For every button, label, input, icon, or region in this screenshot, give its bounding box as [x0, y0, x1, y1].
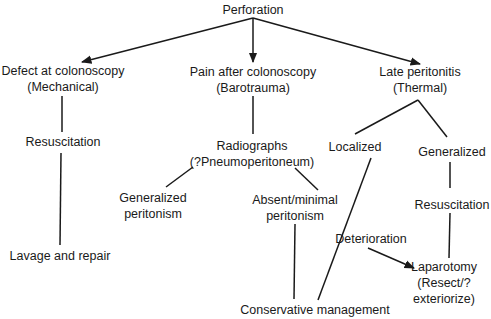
edge-thermal-to-localized [355, 100, 418, 134]
edge-deterioration-to-laparotomy [368, 248, 414, 268]
node-deterioration: Deterioration [335, 231, 407, 247]
node-label: Late peritonitis [379, 64, 460, 80]
node-label: Generalized [418, 144, 485, 160]
node-sublabel: (Thermal) [379, 80, 460, 96]
node-label: Resuscitation [25, 134, 100, 150]
node-label: Radiographs [190, 138, 314, 154]
node-conservative-management: Conservative management [240, 302, 389, 318]
node-label: Laparotomy [411, 259, 477, 275]
node-laparotomy: Laparotomy (Resect/? exteriorize) [411, 259, 477, 307]
node-localized: Localized [329, 139, 382, 155]
node-barotrauma: Pain after colonoscopy (Barotrauma) [190, 64, 316, 96]
edge-root-to-mechanical [82, 18, 253, 62]
node-label: Perforation [222, 2, 283, 18]
edge-absent-peritonism-to-conservative [294, 224, 295, 299]
node-absent-minimal-peritonism: Absent/minimal peritonism [252, 192, 337, 224]
node-mechanical: Defect at colonoscopy (Mechanical) [2, 63, 125, 95]
node-perforation: Perforation [222, 2, 283, 18]
node-radiographs: Radiographs (?Pneumoperitoneum) [190, 138, 314, 170]
edge-resuscitation-to-laparotomy [449, 213, 450, 258]
node-sublabel: (?Pneumoperitoneum) [190, 154, 314, 170]
edge-thermal-to-generalized [418, 100, 447, 137]
node-generalized-peritonism: Generalized peritonism [119, 190, 186, 222]
node-label: Absent/minimal [252, 192, 337, 208]
node-label: Resuscitation [414, 197, 489, 213]
node-label: Pain after colonoscopy [190, 64, 316, 80]
edge-localized-to-conservative [318, 158, 371, 300]
node-label: Deterioration [335, 231, 407, 247]
node-sublabel: peritonism [252, 208, 337, 224]
node-sublabel: peritonism [119, 206, 186, 222]
node-label: Conservative management [240, 302, 389, 318]
node-sublabel: (Resect/? [411, 275, 477, 291]
node-thermal-resuscitation: Resuscitation [414, 197, 489, 213]
node-lavage-and-repair: Lavage and repair [10, 248, 111, 264]
node-sublabel: (Mechanical) [2, 79, 125, 95]
edge-resuscitation-to-lavage [60, 153, 61, 245]
node-mechanical-resuscitation: Resuscitation [25, 134, 100, 150]
node-label: Generalized [119, 190, 186, 206]
node-thermal: Late peritonitis (Thermal) [379, 64, 460, 96]
node-sublabel: (Barotrauma) [190, 80, 316, 96]
node-label: Lavage and repair [10, 248, 111, 264]
node-sublabel: exteriorize) [411, 291, 477, 307]
edge-radiographs-to-generalized-peritonism [166, 167, 193, 187]
edge-root-to-thermal [253, 18, 420, 64]
edge-radiographs-to-absent-peritonism [295, 168, 318, 190]
node-generalized: Generalized [418, 144, 485, 160]
node-label: Localized [329, 139, 382, 155]
node-label: Defect at colonoscopy [2, 63, 125, 79]
